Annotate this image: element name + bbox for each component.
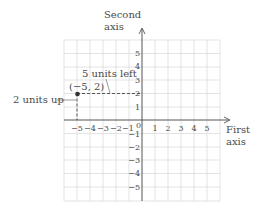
svg-text:1: 1 — [135, 103, 140, 112]
svg-text:1: 1 — [152, 124, 157, 133]
y-axis-label-line1: Second — [104, 9, 142, 20]
coordinate-plane-diagram: Second axis First axis −5 −4 −3 −2 −1 1 … — [0, 0, 257, 208]
svg-text:−3: −3 — [97, 124, 109, 133]
svg-text:−5: −5 — [71, 124, 83, 133]
svg-text:−4: −4 — [128, 169, 140, 178]
svg-text:−2: −2 — [110, 124, 122, 133]
svg-text:3: 3 — [178, 124, 183, 133]
svg-text:−1: −1 — [128, 130, 140, 139]
svg-text:−5: −5 — [128, 183, 140, 192]
svg-text:−2: −2 — [128, 143, 140, 152]
svg-text:2: 2 — [165, 124, 170, 133]
annotation-leader-horizontal — [106, 79, 110, 93]
annotation-5-units-left: 5 units left — [82, 68, 137, 79]
y-axis-label-line2: axis — [104, 21, 124, 32]
svg-text:4: 4 — [191, 124, 196, 133]
x-axis-label-line2: axis — [226, 136, 246, 147]
svg-text:−3: −3 — [128, 156, 140, 165]
svg-text:−4: −4 — [84, 124, 96, 133]
svg-text:5: 5 — [204, 124, 209, 133]
svg-text:5: 5 — [135, 49, 140, 58]
origin-label: 0 — [136, 121, 141, 130]
annotation-2-units-up: 2 units up — [13, 94, 64, 105]
x-axis-label-line1: First — [226, 124, 250, 135]
point-marker — [75, 92, 80, 97]
point-label: (−5, 2) — [69, 81, 104, 92]
